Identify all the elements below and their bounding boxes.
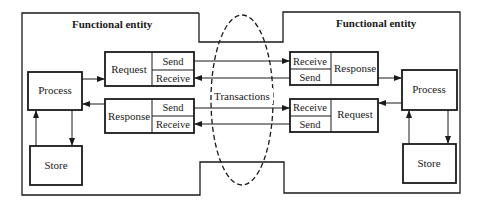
left-request-send-label: Send	[163, 56, 185, 67]
transactions-label: Transactions	[214, 90, 270, 102]
left-entity-boundary-top-notch	[199, 13, 241, 42]
right-request-label: Request	[337, 108, 372, 120]
left-response-module: Response Send Receive	[105, 99, 194, 133]
left-request-receive-label: Receive	[156, 73, 190, 84]
left-process-label: Process	[38, 84, 72, 96]
right-response-receive-label: Receive	[293, 56, 327, 67]
left-entity-title: Functional entity	[72, 18, 153, 30]
right-store-box: Store	[403, 144, 456, 183]
left-response-send-label: Send	[163, 102, 185, 113]
functional-entity-diagram: Functional entity Functional entity Proc…	[0, 0, 480, 201]
right-response-module: Receive Send Response	[290, 52, 378, 85]
left-request-label: Request	[111, 63, 146, 75]
right-process-label: Process	[412, 83, 446, 95]
left-process-box: Process	[28, 72, 82, 110]
left-store-label: Store	[44, 159, 67, 171]
left-response-receive-label: Receive	[156, 119, 190, 130]
left-response-label: Response	[108, 110, 150, 122]
right-response-send-label: Send	[300, 72, 322, 83]
right-response-label: Response	[334, 62, 376, 74]
right-request-module: Receive Send Request	[290, 99, 378, 132]
right-process-box: Process	[402, 70, 457, 110]
right-request-send-label: Send	[300, 119, 322, 130]
left-store-box: Store	[30, 146, 82, 185]
left-request-module: Request Send Receive	[105, 52, 194, 86]
right-store-label: Store	[417, 157, 440, 169]
right-request-receive-label: Receive	[293, 102, 327, 113]
right-entity-title: Functional entity	[336, 17, 417, 29]
